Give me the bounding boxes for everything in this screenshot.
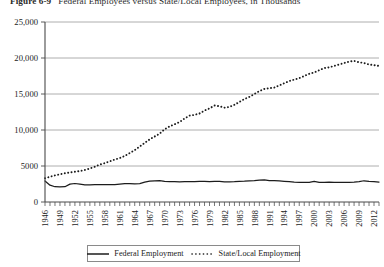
x-axis-tick-label: 2012 [370, 210, 379, 227]
legend-label-federal: Federal Employment [114, 249, 183, 258]
series-line-solid [45, 180, 379, 187]
x-axis-tick-label: 2000 [310, 210, 319, 227]
x-axis-tick-label: 1991 [266, 210, 275, 227]
legend-entry-state-local: State/Local Employment [191, 249, 301, 258]
gridlines [45, 22, 379, 166]
x-axis-tick-label: 1946 [41, 210, 50, 227]
x-axis-tick-labels: 1946194919521955195819611964196719701973… [41, 209, 379, 227]
x-axis-tick-label: 1967 [146, 210, 155, 227]
x-axis-tick-label: 1997 [295, 210, 304, 227]
x-axis-tick-label: 1970 [161, 210, 170, 227]
chart-legend: Federal Employment State/Local Employmen… [87, 245, 300, 262]
x-axis-tick-label: 2009 [355, 210, 364, 227]
x-axis-tick-label: 1994 [280, 209, 289, 227]
legend-entry-federal: Federal Employment [86, 249, 183, 258]
x-axis-tick-label: 2006 [340, 210, 349, 227]
x-axis-tick-label: 1976 [191, 210, 200, 227]
x-axis-tick-label: 1961 [116, 210, 125, 227]
plot-area: 0500010,00015,00020,00025,000 1946194919… [0, 16, 384, 238]
x-axis-tick-label: 1985 [236, 210, 245, 227]
x-axis-tick-label: 1982 [221, 210, 230, 227]
x-axis-minor-ticks [45, 202, 379, 206]
figure-number: Figure 6-9 [10, 0, 51, 6]
chart-svg: 0500010,00015,00020,00025,000 1946194919… [0, 16, 384, 238]
x-axis-tick-label: 1973 [176, 210, 185, 227]
figure-container: Figure 6-9Federal Employees versus State… [0, 0, 384, 267]
y-axis-tick-label: 20,000 [14, 53, 38, 63]
y-axis-tick-label: 15,000 [14, 89, 38, 99]
y-axis-tick-label: 5000 [21, 161, 38, 171]
y-axis-tick-label: 10,000 [14, 125, 38, 135]
x-axis-tick-label: 1979 [206, 210, 215, 227]
x-axis-tick-label: 1952 [71, 210, 80, 227]
data-series [45, 61, 379, 187]
y-axis-tick-labels: 0500010,00015,00020,00025,000 [14, 17, 38, 207]
legend-label-state-local: State/Local Employment [219, 249, 301, 258]
x-axis-tick-label: 1949 [56, 210, 65, 227]
figure-title: Figure 6-9Federal Employees versus State… [10, 0, 380, 10]
x-axis-tick-label: 1958 [101, 210, 110, 227]
series-line-dotted [45, 61, 379, 178]
dotted-line-swatch-icon [191, 250, 215, 258]
y-axis-ticks [41, 22, 45, 202]
y-axis-tick-label: 25,000 [14, 17, 38, 27]
x-axis-tick-label: 1955 [86, 210, 95, 227]
solid-line-swatch-icon [86, 250, 110, 258]
x-axis-tick-label: 2003 [325, 210, 334, 227]
y-axis-tick-label: 0 [34, 197, 38, 207]
x-axis-tick-label: 1988 [251, 210, 260, 227]
figure-title-text: Federal Employees versus State/Local Emp… [58, 0, 300, 6]
x-axis-tick-label: 1964 [131, 209, 140, 227]
